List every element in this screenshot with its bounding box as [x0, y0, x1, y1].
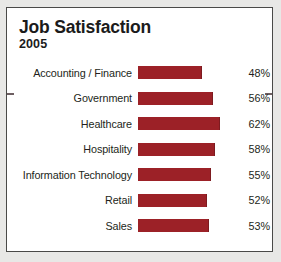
- bar-fill: [138, 219, 209, 232]
- bar-track: [138, 213, 230, 239]
- bar-track: [138, 60, 230, 86]
- bar-category-label: Information Technology: [7, 169, 138, 181]
- bar-value-label: 62%: [230, 118, 270, 130]
- chart-subtitle-year: 2005: [19, 37, 47, 51]
- bar-track: [138, 188, 230, 214]
- bar-value-label: 58%: [230, 143, 270, 155]
- bar-row: Accounting / Finance48%: [7, 60, 272, 86]
- bar-track: [138, 162, 230, 188]
- bar-category-label: Sales: [7, 220, 138, 232]
- bar-category-label: Healthcare: [7, 118, 138, 130]
- bar-fill: [138, 117, 220, 130]
- bar-category-label: Hospitality: [7, 143, 138, 155]
- bar-value-label: 55%: [230, 169, 270, 181]
- bar-fill: [138, 168, 211, 181]
- bar-value-label: 48%: [230, 67, 270, 79]
- bar-track: [138, 86, 230, 112]
- bar-fill: [138, 143, 215, 156]
- bar-row: Retail52%: [7, 188, 272, 214]
- bar-fill: [138, 92, 213, 105]
- bar-row: Sales53%: [7, 213, 272, 239]
- bar-value-label: 52%: [230, 194, 270, 206]
- bar-chart-plot-area: Accounting / Finance48%Government56%Heal…: [7, 60, 272, 245]
- bar-category-label: Accounting / Finance: [7, 67, 138, 79]
- bar-value-label: 53%: [230, 220, 270, 232]
- bar-fill: [138, 66, 202, 79]
- bar-category-label: Government: [7, 92, 138, 104]
- chart-title: Job Satisfaction: [19, 17, 151, 38]
- bar-row: Hospitality58%: [7, 137, 272, 163]
- bar-row: Information Technology55%: [7, 162, 272, 188]
- bar-value-label: 56%: [230, 92, 270, 104]
- bar-fill: [138, 194, 207, 207]
- bar-category-label: Retail: [7, 194, 138, 206]
- bar-track: [138, 137, 230, 163]
- bar-track: [138, 111, 230, 137]
- bar-row: Government56%: [7, 86, 272, 112]
- chart-card: Job Satisfaction 2005 Accounting / Finan…: [6, 7, 273, 252]
- bar-row: Healthcare62%: [7, 111, 272, 137]
